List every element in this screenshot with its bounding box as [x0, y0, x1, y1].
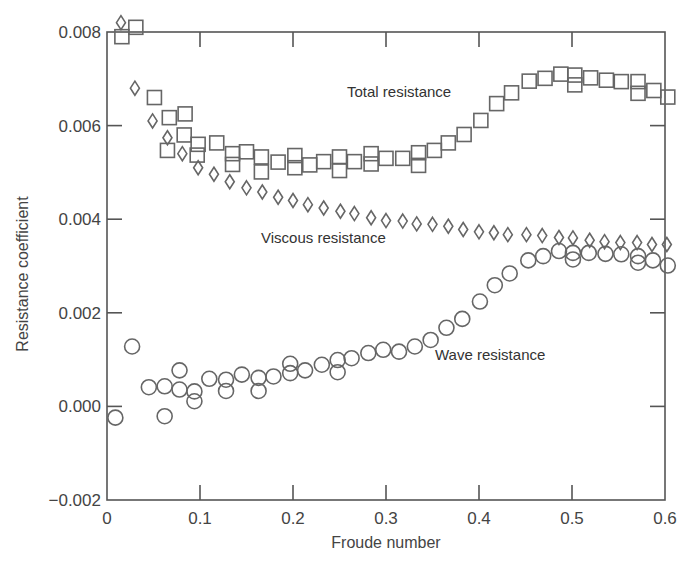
series-layer [108, 16, 675, 425]
circle-marker [502, 266, 517, 281]
diamond-marker [633, 236, 642, 250]
circle-marker [487, 278, 502, 293]
diamond-marker [319, 201, 328, 215]
square-marker [599, 73, 613, 87]
circle-marker [234, 367, 249, 382]
annotation-viscous-resistance: Viscous resistance [261, 229, 386, 246]
diamond-marker [489, 226, 498, 240]
square-marker [379, 151, 393, 165]
square-marker [191, 137, 205, 151]
x-tick-label: 0.1 [188, 509, 212, 528]
x-tick-label: 0.3 [374, 509, 398, 528]
circle-marker [631, 255, 646, 270]
y-tick-label: 0.006 [58, 117, 101, 136]
circle-marker [392, 344, 407, 359]
diamond-marker [475, 225, 484, 239]
diamond-marker [225, 175, 234, 189]
circle-marker [141, 380, 156, 395]
circle-marker [314, 357, 329, 372]
circle-marker [455, 311, 470, 326]
annotation-wave-resistance: Wave resistance [435, 346, 545, 363]
diamond-marker [336, 204, 345, 218]
square-marker [522, 74, 536, 88]
diamond-marker [398, 214, 407, 228]
y-tick-label: 0.004 [58, 210, 101, 229]
x-axis-title: Froude number [331, 534, 441, 551]
series-wave-resistance [108, 244, 675, 426]
square-marker [568, 78, 582, 92]
circle-marker [376, 342, 391, 357]
square-marker [226, 147, 240, 161]
annotation-total-resistance: Total resistance [347, 83, 451, 100]
diamond-marker [303, 198, 312, 212]
y-tick-label: 0.000 [58, 397, 101, 416]
circle-marker [298, 363, 313, 378]
circle-marker [125, 339, 140, 354]
circle-marker [219, 383, 234, 398]
square-marker [303, 158, 317, 172]
diamond-marker [116, 16, 125, 30]
circle-marker [157, 379, 172, 394]
circle-marker [631, 249, 646, 264]
square-marker [647, 84, 661, 98]
x-tick-label: 0 [102, 509, 111, 528]
diamond-marker [538, 229, 547, 243]
square-marker [364, 157, 378, 171]
diamond-marker [148, 114, 157, 128]
plot-frame [107, 32, 665, 500]
square-marker [457, 127, 471, 141]
square-marker [210, 136, 224, 150]
diamond-marker [209, 167, 218, 181]
diamond-marker [382, 214, 391, 228]
square-marker [333, 164, 347, 178]
square-marker [333, 150, 347, 164]
diamond-marker [428, 217, 437, 231]
circle-marker [172, 363, 187, 378]
circle-marker [344, 351, 359, 366]
circle-marker [439, 320, 454, 335]
diamond-marker [242, 181, 251, 195]
circle-marker [157, 409, 172, 424]
y-tick-label: −0.002 [49, 491, 101, 510]
square-marker [177, 128, 191, 142]
square-marker [190, 148, 204, 162]
diamond-marker [647, 237, 656, 251]
square-marker [427, 143, 441, 157]
diamond-marker [130, 81, 139, 95]
x-tick-label: 0.6 [653, 509, 677, 528]
diamond-marker [522, 228, 531, 242]
circle-marker [407, 339, 422, 354]
y-axis-title: Resistance coefficient [14, 196, 31, 352]
square-marker [178, 107, 192, 121]
circle-marker [660, 258, 675, 273]
diamond-marker [459, 222, 468, 236]
square-marker [661, 90, 675, 104]
circle-marker [108, 410, 123, 425]
square-marker [240, 145, 254, 159]
square-marker [614, 75, 628, 89]
square-marker [584, 71, 598, 85]
square-marker [226, 157, 240, 171]
x-tick-label: 0.4 [467, 509, 491, 528]
square-marker [317, 155, 331, 169]
square-marker [271, 155, 285, 169]
diamond-marker [274, 190, 283, 204]
diamond-marker [503, 228, 512, 242]
x-tick-label: 0.5 [560, 509, 584, 528]
y-tick-label: 0.002 [58, 304, 101, 323]
circle-marker [645, 253, 660, 268]
square-marker [162, 111, 176, 125]
diamond-marker [350, 207, 359, 221]
square-marker [538, 71, 552, 85]
square-marker [364, 147, 378, 161]
circle-marker [536, 249, 551, 264]
square-marker [254, 165, 268, 179]
resistance-chart: 00.10.20.30.40.50.6 −0.0020.0000.0020.00… [0, 0, 694, 564]
diamond-marker [258, 185, 267, 199]
diamond-marker [662, 237, 671, 251]
square-marker [254, 150, 268, 164]
square-marker [441, 136, 455, 150]
circle-marker [283, 356, 298, 371]
square-marker [474, 113, 488, 127]
circle-marker [565, 245, 580, 260]
